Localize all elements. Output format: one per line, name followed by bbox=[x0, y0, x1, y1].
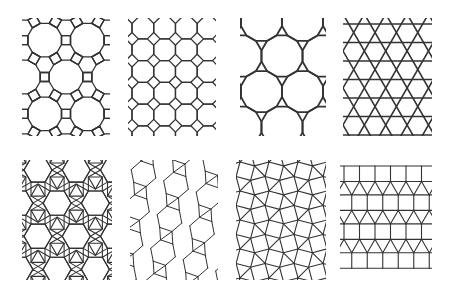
tile-3-12-12-pattern bbox=[240, 18, 326, 136]
tile-4-6-12 bbox=[22, 18, 110, 136]
tile-4-8-8-pattern bbox=[128, 18, 216, 136]
tile-3-3-3-3-6 bbox=[130, 160, 218, 280]
tile-3-3-3-4-4 bbox=[340, 160, 432, 280]
tile-3-4-6-4-pattern bbox=[22, 160, 112, 280]
tile-3-6-3-6 bbox=[343, 18, 432, 136]
tile-3-6-3-6-pattern bbox=[343, 18, 432, 136]
tile-3-3-3-4-4-pattern bbox=[340, 160, 432, 280]
tile-4-8-8 bbox=[128, 18, 216, 136]
tile-3-12-12 bbox=[240, 18, 326, 136]
tile-4-6-12-pattern bbox=[22, 18, 110, 136]
tile-3-3-3-3-6-pattern bbox=[130, 160, 218, 280]
tile-3-4-6-4 bbox=[22, 160, 112, 280]
tile-3-3-4-3-4 bbox=[236, 160, 326, 280]
tile-3-3-4-3-4-pattern bbox=[236, 160, 326, 280]
